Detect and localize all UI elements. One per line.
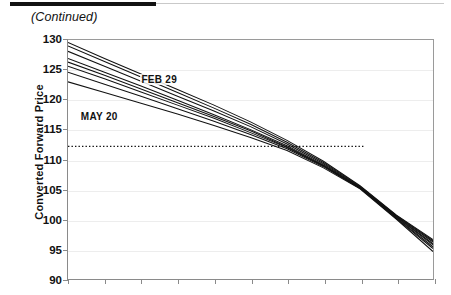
y-axis-tick-mark (63, 280, 68, 281)
page-root: (Continued) Converted Forward Price 1301… (0, 0, 451, 295)
x-axis-tick-mark (362, 279, 363, 284)
y-axis-tick-label: 100 (43, 214, 62, 226)
series-annotation-label: FEB 29 (140, 74, 178, 85)
y-axis-tick-mark (63, 250, 68, 251)
plot-area (67, 39, 434, 280)
y-axis-tick-label: 115 (43, 123, 62, 135)
y-axis-tick-label: 120 (43, 93, 62, 105)
series-annotation-label: MAY 20 (80, 111, 119, 122)
x-axis-tick-mark (178, 279, 179, 284)
y-axis-tick-label: 105 (43, 184, 62, 196)
x-axis-tick-mark (68, 279, 69, 284)
y-axis-tick-label: 125 (43, 63, 62, 75)
y-axis-tick-label: 90 (49, 274, 62, 286)
x-axis-tick-mark (105, 279, 106, 284)
y-axis-tick-label: 130 (43, 33, 62, 45)
y-axis-tick-mark (63, 190, 68, 191)
x-axis-tick-mark (141, 279, 142, 284)
continued-caption: (Continued) (31, 10, 97, 24)
header-rule (10, 2, 156, 6)
y-axis-tick-mark (63, 39, 68, 40)
y-axis-tick-label: 95 (49, 244, 62, 256)
reference-line (68, 40, 433, 279)
y-axis-tick-mark (63, 160, 68, 161)
x-axis-tick-mark (252, 279, 253, 284)
y-axis-labels: 1301251201151101051009590 (26, 39, 62, 280)
x-axis-tick-mark (435, 279, 436, 284)
x-axis-tick-mark (325, 279, 326, 284)
x-axis-tick-mark (215, 279, 216, 284)
plot-inner (68, 40, 433, 279)
x-axis-tick-mark (288, 279, 289, 284)
y-axis-tick-mark (63, 129, 68, 130)
y-axis-tick-mark (63, 220, 68, 221)
header-rule-tail (156, 3, 444, 4)
y-axis-tick-mark (63, 69, 68, 70)
y-axis-tick-label: 110 (43, 154, 62, 166)
chart-container: Converted Forward Price 1301251201151101… (0, 28, 451, 295)
y-axis-tick-mark (63, 99, 68, 100)
x-axis-tick-mark (398, 279, 399, 284)
